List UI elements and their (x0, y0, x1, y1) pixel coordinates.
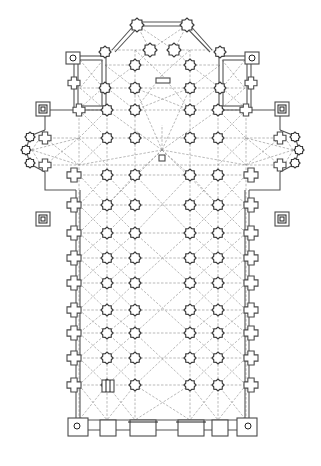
pier (99, 82, 111, 94)
pier (25, 158, 35, 168)
pier (99, 46, 111, 58)
pier (129, 379, 141, 391)
pier (101, 304, 113, 316)
pier (184, 59, 196, 71)
pier (101, 104, 113, 116)
pier (129, 82, 141, 94)
pier (184, 169, 196, 181)
pier (290, 132, 300, 142)
pier (212, 304, 224, 316)
pier (129, 169, 141, 181)
pier (21, 145, 31, 155)
pier (167, 43, 181, 57)
pier (212, 169, 224, 181)
cathedral-floor-plan (0, 0, 321, 466)
pier (129, 104, 141, 116)
pier (212, 104, 224, 116)
pier (184, 104, 196, 116)
pier (184, 379, 196, 391)
pier (101, 199, 113, 211)
pier (101, 327, 113, 339)
pier (101, 277, 113, 289)
facade-portals (68, 418, 257, 436)
pier (101, 132, 113, 144)
pier (184, 82, 196, 94)
pier (214, 82, 226, 94)
pier (130, 18, 144, 32)
pier (129, 227, 141, 239)
pier (129, 199, 141, 211)
pier (212, 352, 224, 364)
pier (129, 59, 141, 71)
pier (212, 199, 224, 211)
pier (212, 327, 224, 339)
pier (101, 252, 113, 264)
pier (212, 132, 224, 144)
buttress (274, 132, 286, 144)
pier (101, 352, 113, 364)
pier (184, 227, 196, 239)
pier (184, 277, 196, 289)
pier (214, 46, 226, 58)
pier (129, 327, 141, 339)
pier (180, 18, 194, 32)
pier (290, 158, 300, 168)
pier (129, 352, 141, 364)
pier (212, 252, 224, 264)
pier (184, 304, 196, 316)
pier (212, 379, 224, 391)
piers (99, 18, 226, 391)
pier (101, 227, 113, 239)
pier (184, 199, 196, 211)
pier (129, 304, 141, 316)
pier (129, 132, 141, 144)
pier (184, 327, 196, 339)
pier (184, 252, 196, 264)
pier (294, 145, 304, 155)
pier (184, 352, 196, 364)
buttress (39, 132, 51, 144)
buttresses (21, 77, 304, 392)
pier (212, 277, 224, 289)
pier (143, 43, 157, 57)
pier (129, 252, 141, 264)
pier (25, 132, 35, 142)
pier (184, 132, 196, 144)
pier (129, 277, 141, 289)
pier (101, 169, 113, 181)
pier (212, 227, 224, 239)
